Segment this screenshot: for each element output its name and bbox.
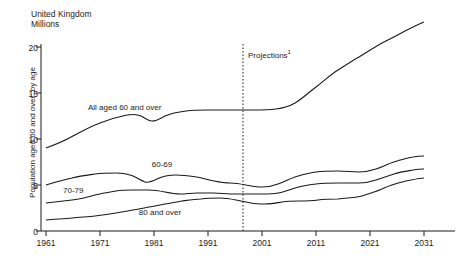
series-line-70-79 xyxy=(46,169,424,203)
chart-figure: United Kingdom Millions Population aged … xyxy=(0,0,466,260)
series-line-80-and-over xyxy=(46,178,424,220)
chart-plot-area xyxy=(0,0,466,260)
series-line-all-aged-60-and-over xyxy=(46,22,424,148)
x-axis-ticks xyxy=(46,231,424,236)
y-axis-ticks xyxy=(36,47,41,231)
